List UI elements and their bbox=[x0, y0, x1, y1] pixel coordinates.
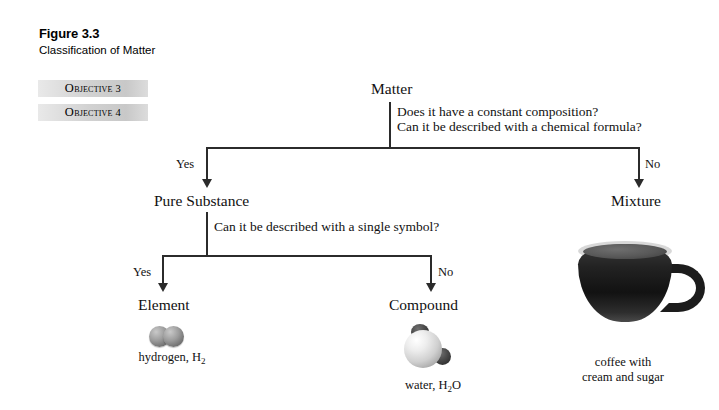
connector-level2-bar bbox=[162, 255, 432, 257]
connector-level2-left-drop bbox=[162, 255, 164, 284]
arrow-level2-no bbox=[426, 283, 436, 292]
question-level1-line1: Does it have a constant composition? bbox=[397, 104, 598, 119]
branch-label-no-2: No bbox=[438, 265, 453, 280]
mixture-example-caption-line1: coffee with bbox=[568, 355, 678, 370]
objective-number: 3 bbox=[116, 83, 122, 94]
arrow-level2-yes bbox=[158, 283, 168, 292]
arrow-level1-no bbox=[634, 179, 644, 188]
branch-label-yes-2: Yes bbox=[133, 265, 151, 280]
figure-number: Figure 3.3 bbox=[39, 26, 99, 41]
node-compound: Compound bbox=[389, 296, 458, 314]
question-level1-line2: Can it be described with a chemical form… bbox=[397, 119, 642, 134]
hydrogen-atom-sphere bbox=[163, 326, 184, 347]
coffee-liquid-surface bbox=[583, 244, 667, 259]
objective-badge-3: Objective 3 bbox=[38, 80, 148, 97]
objective-label-rest: bjective bbox=[74, 81, 113, 96]
connector-pure-substance-stem bbox=[206, 212, 208, 256]
connector-level1-bar bbox=[206, 147, 640, 149]
oxygen-atom-sphere bbox=[404, 330, 442, 368]
question-level2: Can it be described with a single symbol… bbox=[214, 219, 439, 234]
node-mixture: Mixture bbox=[611, 192, 661, 210]
objective-label-prefix: O bbox=[65, 105, 74, 120]
branch-label-no-1: No bbox=[645, 157, 660, 172]
node-element: Element bbox=[138, 296, 190, 314]
connector-level1-right-drop bbox=[638, 147, 640, 180]
element-example-caption: hydrogen, H2 bbox=[122, 350, 222, 369]
subscript: 2 bbox=[201, 356, 206, 366]
connector-matter-stem bbox=[389, 102, 391, 148]
objective-number: 4 bbox=[116, 107, 122, 118]
figure-canvas: Figure 3.3 Classification of Matter Obje… bbox=[0, 0, 719, 410]
connector-level1-left-drop bbox=[206, 147, 208, 180]
water-molecule-illustration bbox=[402, 324, 458, 374]
branch-label-yes-1: Yes bbox=[176, 157, 194, 172]
compound-example-caption: water, H2O bbox=[381, 378, 485, 397]
hydrogen-molecule-illustration bbox=[149, 326, 191, 348]
coffee-cup-illustration bbox=[572, 238, 692, 330]
figure-title: Classification of Matter bbox=[39, 44, 155, 56]
node-pure-substance: Pure Substance bbox=[154, 192, 249, 210]
connector-level2-right-drop bbox=[430, 255, 432, 284]
objective-badge-4: Objective 4 bbox=[38, 104, 148, 121]
node-matter: Matter bbox=[371, 80, 412, 98]
arrow-level1-yes bbox=[202, 179, 212, 188]
objective-label-prefix: O bbox=[65, 81, 74, 96]
mixture-example-caption-line2: cream and sugar bbox=[568, 370, 678, 385]
objective-label-rest: bjective bbox=[74, 105, 113, 120]
